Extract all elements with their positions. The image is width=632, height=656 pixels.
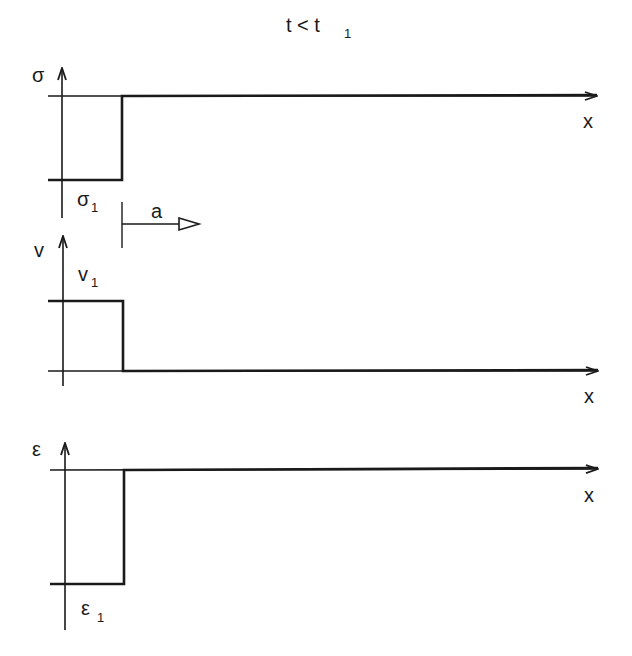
stress-profile (48, 95, 597, 180)
title-main: t < t (286, 14, 320, 36)
stress-level-subscript: 1 (91, 200, 98, 215)
velocity-level-subscript: 1 (91, 275, 98, 290)
velocity-panel (48, 236, 598, 386)
velocity-y-label: v (34, 239, 44, 261)
front-label: a (151, 200, 163, 222)
strain-level-label: ε (81, 597, 90, 619)
title: t < t 1 (286, 14, 351, 41)
stress-level-label: σ (77, 188, 90, 210)
stress-panel (48, 68, 597, 218)
front-arrow-head-icon (179, 218, 199, 230)
wave-front-diagram: t < t 1 σ x σ 1 a v x v 1 ε x ε 1 (0, 0, 632, 656)
stress-x-label: x (583, 110, 593, 132)
velocity-profile (48, 301, 598, 371)
strain-profile (50, 468, 598, 584)
title-subscript: 1 (344, 26, 351, 41)
strain-level-subscript: 1 (97, 610, 104, 625)
stress-y-label: σ (32, 64, 45, 86)
strain-x-label: x (584, 484, 594, 506)
strain-y-label: ε (32, 438, 41, 460)
velocity-level-label: v (78, 263, 88, 285)
strain-panel (50, 443, 598, 630)
velocity-x-label: x (584, 385, 594, 407)
